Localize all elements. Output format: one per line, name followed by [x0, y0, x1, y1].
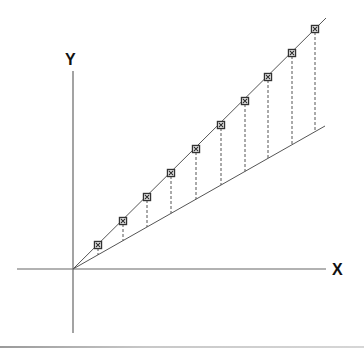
drop-lines: [98, 32, 315, 255]
y-axis-label: Y: [65, 52, 76, 68]
bottom-divider: [0, 346, 364, 348]
boxed-x-marker-icon: [144, 194, 151, 201]
boxed-x-marker-icon: [95, 242, 102, 249]
boxed-x-marker-icon: [120, 218, 127, 225]
boxed-x-marker-icon: [218, 122, 225, 129]
boxed-x-marker-icon: [289, 50, 296, 57]
boxed-x-marker-icon: [265, 74, 272, 81]
boxed-x-marker-icon: [168, 170, 175, 177]
x-axis-label: X: [332, 262, 343, 278]
diagram-canvas: [0, 0, 364, 349]
boxed-x-marker-icon: [312, 26, 319, 33]
boxed-x-marker-icon: [242, 98, 249, 105]
boxed-x-marker-icon: [193, 146, 200, 153]
